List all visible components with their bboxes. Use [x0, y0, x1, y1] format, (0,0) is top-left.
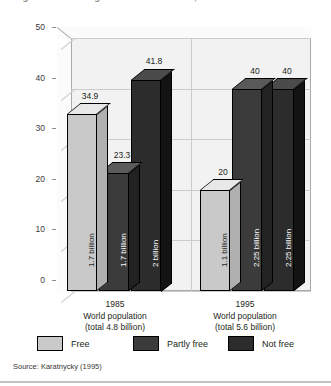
bar-caption: 1.7 billion — [87, 233, 96, 267]
bar-free-1995: 1.1 billion — [200, 190, 230, 291]
bar-side-face — [129, 164, 140, 291]
y-tick-label-10: 10 — [36, 224, 45, 234]
y-tick-mark-0 — [52, 280, 56, 281]
x-axis-caption-line: World population — [190, 311, 300, 323]
legend-item-not-free[interactable]: Not free — [228, 336, 294, 351]
bar-side-face — [161, 71, 172, 291]
bar-caption: 2.25 billion — [284, 229, 293, 267]
x-axis-caption-line: (total 5.6 billion) — [190, 322, 300, 334]
bar-caption: 2 billion — [151, 240, 160, 267]
legend-swatch — [228, 336, 254, 351]
y-tick-label-50: 50 — [36, 22, 45, 32]
legend-label: Not free — [262, 339, 294, 349]
bar-value-label: 23.3 — [107, 150, 137, 160]
y-tick-mark-10 — [52, 229, 56, 230]
bar-side-face — [97, 106, 108, 291]
y-tick-mark-20 — [52, 179, 56, 180]
bar-value-label: 40 — [272, 66, 302, 76]
x-axis-caption-1995: 1995World population(total 5.6 billion) — [190, 299, 300, 334]
chart-ceiling-diagonal — [57, 27, 72, 39]
bar-caption: 2.25 billion — [252, 229, 261, 267]
bar-value-label: 41.8 — [139, 56, 169, 66]
legend-item-free[interactable]: Free — [37, 336, 90, 351]
y-tick-label-40: 40 — [36, 73, 45, 83]
y-tick-label-0: 0 — [40, 275, 45, 285]
figure-title-strip: Figure: Political rights and civil liber… — [0, 0, 331, 9]
bar-value-label: 34.9 — [75, 91, 105, 101]
bar-caption: 1.1 billion — [220, 233, 229, 267]
bar-caption: 1.7 billion — [119, 233, 128, 267]
gridline-0 — [71, 291, 311, 292]
bar-free-1985: 1.7 billion — [67, 114, 97, 291]
legend-swatch — [37, 336, 63, 351]
legend-item-partly-free[interactable]: Partly free — [133, 336, 208, 351]
y-tick-mark-50 — [52, 27, 56, 28]
bar-value-label: 40 — [240, 66, 270, 76]
chart-plot-area: 01020304050 Per cent 1.7 billion34.91.1 … — [57, 27, 311, 291]
y-tick-label-30: 30 — [36, 123, 45, 133]
bar-front-face: 1.1 billion — [200, 190, 230, 291]
x-axis-year: 1995 — [190, 299, 300, 311]
bar-front-face: 1.7 billion — [67, 114, 97, 291]
page-title: Figure: Political rights and civil liber… — [14, 0, 264, 2]
x-axis-caption-line: (total 4.8 billion) — [60, 322, 170, 334]
source-note: Source: Karatnycky (1995) — [13, 362, 102, 371]
y-tick-mark-40 — [52, 78, 56, 79]
chart-legend: FreePartly freeNot free — [0, 336, 331, 360]
bar-side-face — [230, 181, 241, 291]
x-axis-caption-1985: 1985World population(total 4.8 billion) — [60, 299, 170, 334]
legend-label: Partly free — [167, 339, 208, 349]
y-tick-mark-30 — [52, 128, 56, 129]
x-axis-year: 1985 — [60, 299, 170, 311]
bottom-divider — [0, 381, 331, 383]
bar-side-face — [262, 80, 273, 291]
chart-group-divider — [191, 38, 192, 291]
legend-label: Free — [71, 339, 90, 349]
bar-value-label: 20 — [208, 167, 238, 177]
y-tick-label-20: 20 — [36, 174, 45, 184]
legend-swatch — [133, 336, 159, 351]
bar-side-face — [294, 80, 305, 291]
x-axis-caption-line: World population — [60, 311, 170, 323]
